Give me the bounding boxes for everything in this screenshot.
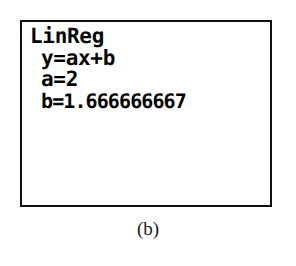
calculator-screen: LinReg y=ax+b a=2 b=1.666666667 [20, 20, 272, 207]
calc-line-slope: a=2 [30, 69, 266, 91]
calc-line-linreg: LinReg [30, 26, 266, 48]
calc-line-intercept: b=1.666666667 [30, 91, 266, 113]
calc-line-model: y=ax+b [30, 48, 266, 70]
calculator-screen-text-area: LinReg y=ax+b a=2 b=1.666666667 [30, 26, 266, 203]
figure-caption: (b) [0, 218, 296, 240]
